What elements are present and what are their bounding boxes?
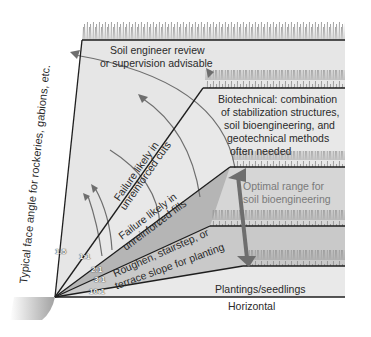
ratio-1-1: 1:1 bbox=[79, 252, 91, 261]
grass-step4 bbox=[245, 250, 345, 266]
biotech-line-3: soil bioengineering, and bbox=[224, 119, 335, 131]
ground-shadow bbox=[10, 297, 55, 320]
ratio-2-1: 2:1 bbox=[91, 265, 103, 274]
biotech-line-2: of stabilization structures, bbox=[221, 106, 339, 118]
grass-top bbox=[82, 22, 345, 40]
arrowhead-1 bbox=[70, 50, 80, 59]
biotech-line-1: Biotechnical: combination bbox=[218, 93, 337, 105]
biotech-line-5: often needed bbox=[230, 145, 291, 157]
zone-top-label-1: Soil engineer review bbox=[110, 44, 205, 56]
zone-top-label-2: or supervision advisable bbox=[100, 57, 213, 69]
grass-step1 bbox=[205, 70, 345, 88]
horizontal-label: Horizontal bbox=[228, 300, 275, 312]
optimal-line-2: soil bioengineering bbox=[243, 193, 331, 205]
biotech-line-4: geotechnical methods bbox=[227, 132, 329, 144]
grass-step3 bbox=[212, 210, 345, 226]
ratio-3-1: 3:1 bbox=[94, 275, 106, 284]
ratio-1-5: 1.5 bbox=[55, 247, 66, 256]
optimal-line-1: Optimal range for bbox=[243, 180, 324, 192]
ratio-10-1: 10:1 bbox=[89, 287, 105, 296]
plantings-label: Plantings/seedlings bbox=[215, 283, 305, 295]
